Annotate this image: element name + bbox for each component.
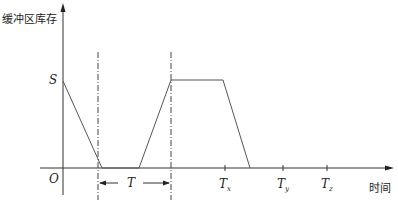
tick-label-tz-sub: z [329, 185, 333, 193]
tick-label-tx: Tx [219, 177, 231, 191]
period-t-label: T [127, 176, 135, 190]
inventory-diagram [0, 0, 398, 207]
period-arrow-right-icon [163, 181, 170, 186]
inventory-curve [63, 80, 250, 168]
y-axis-label: 缓冲区库存 [2, 10, 57, 26]
tick-label-ty-base: T [277, 177, 285, 191]
tick-label-tz: Tz [321, 177, 333, 191]
tick-label-tx-sub: x [227, 185, 231, 193]
tick-label-ty: Ty [277, 177, 289, 191]
tick-label-tz-base: T [321, 177, 329, 191]
tick-label-tx-base: T [219, 177, 227, 191]
x-axis-label: 时间 [369, 179, 391, 195]
tick-label-ty-sub: y [285, 185, 289, 193]
origin-label: O [49, 172, 59, 186]
level-s-label: S [49, 73, 57, 87]
x-axis-arrow-icon [385, 166, 394, 171]
period-arrow-left-icon [99, 181, 106, 186]
y-axis-arrow-icon [61, 3, 66, 12]
